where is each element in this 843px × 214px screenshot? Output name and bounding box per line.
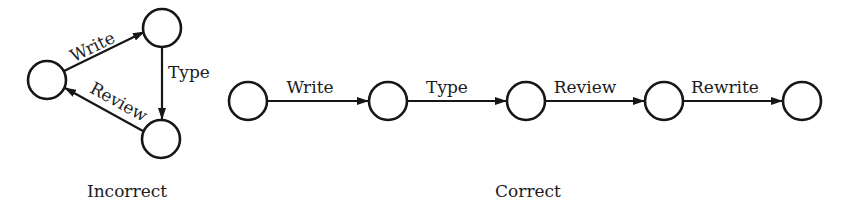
incorrect-edge-label-write: Write (67, 27, 118, 66)
incorrect-node-bottom (142, 120, 180, 158)
correct-edge-label-review: Review (554, 77, 617, 97)
incorrect-edge-label-type: Type (168, 62, 210, 82)
workflow-diagram: Write Type Review Incorrect Write Type R… (0, 0, 843, 214)
correct-node-4 (645, 82, 683, 120)
incorrect-caption: Incorrect (87, 181, 167, 201)
incorrect-node-top (143, 9, 181, 47)
correct-diagram: Write Type Review Rewrite Correct (229, 77, 821, 201)
correct-node-3 (507, 82, 545, 120)
correct-node-2 (369, 82, 407, 120)
incorrect-diagram: Write Type Review Incorrect (28, 9, 210, 201)
correct-node-5 (783, 82, 821, 120)
correct-edge-label-write: Write (286, 77, 333, 97)
correct-edge-label-rewrite: Rewrite (691, 77, 759, 97)
correct-caption: Correct (495, 181, 561, 201)
incorrect-node-left (28, 61, 66, 99)
correct-node-1 (229, 82, 267, 120)
correct-edge-label-type: Type (426, 77, 468, 97)
